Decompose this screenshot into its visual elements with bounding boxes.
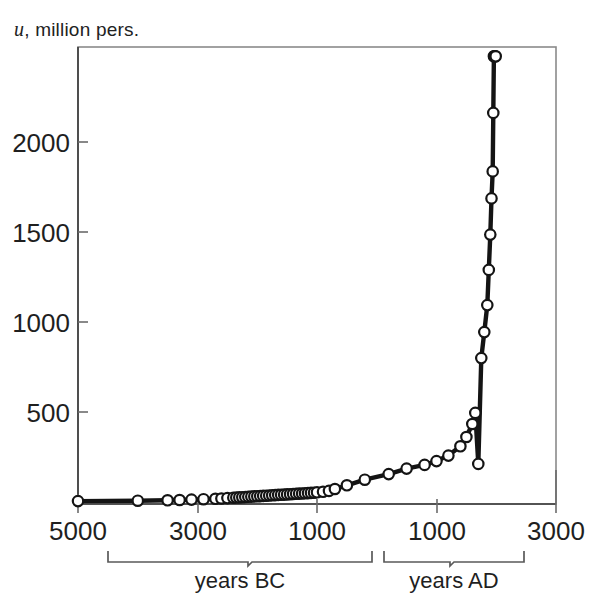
data-point-marker <box>476 353 486 363</box>
chart-svg: 2000 1500 1000 500 5000 3000 1000 1000 3… <box>0 0 599 605</box>
series-markers <box>73 51 501 506</box>
data-point-marker <box>485 229 495 239</box>
data-point-marker <box>174 495 184 505</box>
plot-frame <box>78 47 556 504</box>
data-point-marker <box>342 480 352 490</box>
data-point-marker <box>133 496 143 506</box>
x-tick-label-1000ad: 1000 <box>408 516 466 546</box>
data-point-marker <box>461 432 471 442</box>
data-point-marker <box>401 463 411 473</box>
data-point-marker <box>186 494 196 504</box>
data-point-marker <box>162 495 172 505</box>
data-point-marker <box>330 484 340 494</box>
population-chart-figure: u, million pers. 2000 1500 1000 500 5000 <box>0 0 599 605</box>
data-point-marker <box>419 460 429 470</box>
y-tick-label-1500: 1500 <box>12 218 70 248</box>
x-tick-label-3000ad: 3000 <box>527 516 585 546</box>
data-point-marker <box>384 469 394 479</box>
data-point-marker <box>484 265 494 275</box>
data-point-marker <box>360 475 370 485</box>
y-axis-ticks <box>78 142 88 412</box>
data-point-marker <box>488 166 498 176</box>
x-tick-label-1000bc: 1000 <box>288 516 346 546</box>
data-point-marker <box>479 327 489 337</box>
data-point-marker <box>470 408 480 418</box>
data-point-marker <box>473 459 483 469</box>
y-tick-label-2000: 2000 <box>12 128 70 158</box>
bracket-years-ad <box>384 551 524 566</box>
x-tick-label-5000bc: 5000 <box>49 516 107 546</box>
axis-group-label-bc: years BC <box>195 568 286 593</box>
data-point-marker <box>482 300 492 310</box>
data-point-marker <box>488 108 498 118</box>
data-point-marker <box>431 456 441 466</box>
x-tick-label-3000bc: 3000 <box>169 516 227 546</box>
data-point-marker <box>443 450 453 460</box>
series-line <box>78 56 496 501</box>
data-point-marker <box>467 419 477 429</box>
data-point-marker <box>486 193 496 203</box>
axis-group-label-ad: years AD <box>409 568 498 593</box>
y-tick-label-500: 500 <box>27 398 70 428</box>
data-point-marker <box>73 496 83 506</box>
data-point-marker <box>198 494 208 504</box>
y-tick-label-1000: 1000 <box>12 308 70 338</box>
bracket-years-bc <box>108 551 372 566</box>
data-point-marker <box>491 51 501 61</box>
data-series-world-population <box>73 51 501 506</box>
